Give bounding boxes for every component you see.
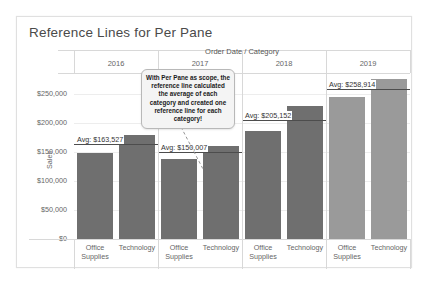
pane-header-2018[interactable]: 2018 <box>242 59 326 71</box>
bar-2017-technology[interactable] <box>203 146 239 239</box>
category-label-2017-technology[interactable]: Technology <box>200 243 242 252</box>
visualization-card: Reference Lines for Per Pane Order Date … <box>16 16 412 268</box>
header-separator <box>242 50 243 73</box>
bar-2017-office-supplies[interactable] <box>161 159 197 239</box>
reference-line-2017[interactable] <box>158 152 242 153</box>
bar-2018-office-supplies[interactable] <box>245 131 281 239</box>
category-label-2017-office-supplies[interactable]: Office Supplies <box>158 243 200 261</box>
y-axis-tick-label: $100,000 <box>37 176 67 185</box>
category-separator <box>242 239 243 269</box>
y-axis-tick-label: $50,000 <box>41 205 67 214</box>
category-label-2019-technology[interactable]: Technology <box>368 243 410 252</box>
category-label-2018-technology[interactable]: Technology <box>284 243 326 252</box>
pane-header-2019[interactable]: 2019 <box>326 59 410 71</box>
reference-line-label-2018: Avg: $205,152 <box>244 111 292 120</box>
reference-line-2018[interactable] <box>242 120 326 121</box>
category-separator <box>410 239 411 269</box>
header-separator <box>326 50 327 73</box>
y-axis-tick-label: $200,000 <box>37 118 67 127</box>
pane-divider <box>242 74 243 239</box>
callout-annotation: With Per Pane as scope, the reference li… <box>141 69 235 129</box>
bar-2018-technology[interactable] <box>287 106 323 239</box>
reference-line-2019[interactable] <box>326 89 410 90</box>
category-separator <box>158 239 159 269</box>
header-separator <box>74 50 75 73</box>
y-axis-tick-label: $250,000 <box>37 89 67 98</box>
header-separator <box>410 50 411 73</box>
category-label-2016-office-supplies[interactable]: Office Supplies <box>74 243 116 261</box>
pane-divider <box>326 74 327 239</box>
category-label-2018-office-supplies[interactable]: Office Supplies <box>242 243 284 261</box>
bar-2016-office-supplies[interactable] <box>77 153 113 239</box>
category-label-2016-technology[interactable]: Technology <box>116 243 158 252</box>
plot-area: Avg: $163,527Avg: $150,007Avg: $205,152A… <box>74 74 410 239</box>
category-axis-rule <box>29 239 410 240</box>
bar-2019-office-supplies[interactable] <box>329 97 365 239</box>
reference-line-label-2019: Avg: $258,914 <box>328 80 376 89</box>
bar-2016-technology[interactable] <box>119 135 155 239</box>
reference-line-2016[interactable] <box>74 144 158 145</box>
reference-line-label-2016: Avg: $163,527 <box>76 135 124 144</box>
category-label-2019-office-supplies[interactable]: Office Supplies <box>326 243 368 261</box>
category-separator <box>74 239 75 269</box>
reference-line-label-2017: Avg: $150,007 <box>160 143 208 152</box>
y-axis-title: Sales <box>45 151 54 169</box>
bar-2019-technology[interactable] <box>371 79 407 239</box>
category-separator <box>326 239 327 269</box>
page-title: Reference Lines for Per Pane <box>29 25 212 40</box>
